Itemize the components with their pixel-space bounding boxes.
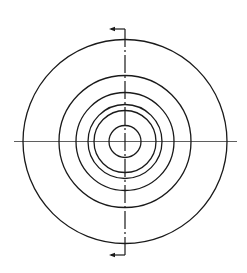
diagram-canvas (0, 0, 247, 273)
arrow-left-icon (109, 253, 115, 257)
concentric-circles-diagram (0, 0, 247, 273)
arrow-left-icon (109, 27, 115, 31)
